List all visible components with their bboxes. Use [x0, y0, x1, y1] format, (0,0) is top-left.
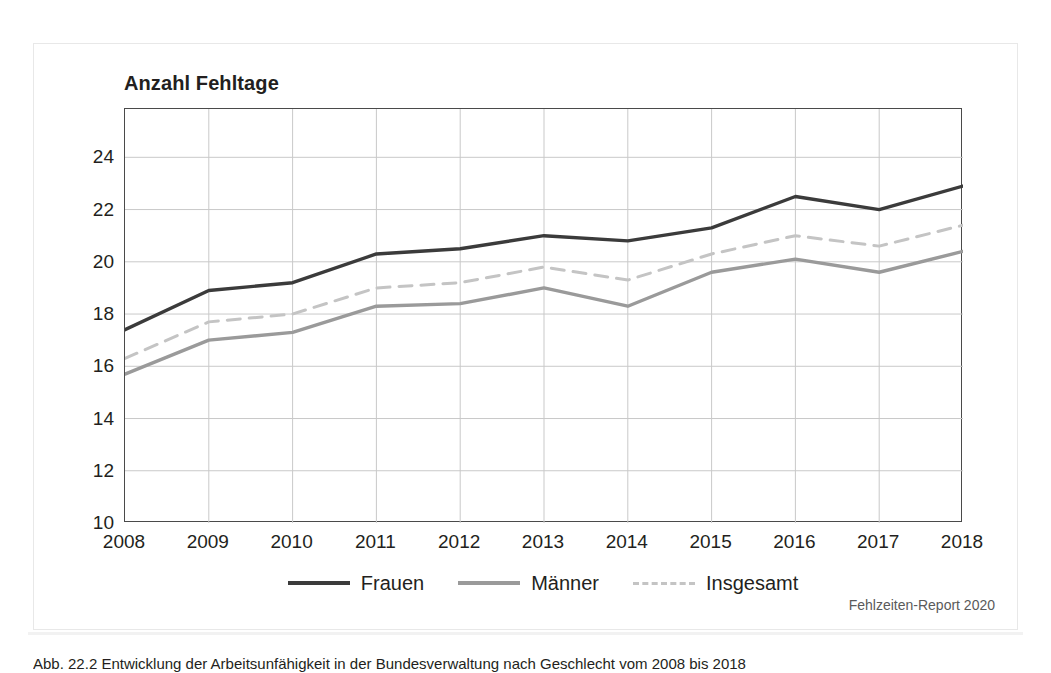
x-tick-label: 2015 — [671, 532, 751, 551]
legend-label: Insgesamt — [706, 573, 798, 593]
legend-entry-insgesamt[interactable]: Insgesamt — [633, 573, 798, 593]
legend-swatch-icon — [458, 581, 520, 585]
plot-area — [124, 108, 962, 522]
plot-svg — [125, 109, 963, 523]
figure-caption: Abb. 22.2 Entwicklung der Arbeitsunfähig… — [33, 655, 1023, 672]
x-tick-label: 2017 — [838, 532, 918, 551]
x-tick-label: 2018 — [922, 532, 1002, 551]
y-tick-label: 16 — [70, 356, 114, 375]
x-tick-label: 2011 — [335, 532, 415, 551]
legend-entry-frauen[interactable]: Frauen — [288, 573, 424, 593]
y-axis-tick-labels: 1012141618202224 — [62, 108, 114, 522]
x-tick-label: 2010 — [252, 532, 332, 551]
x-tick-label: 2013 — [503, 532, 583, 551]
x-tick-label: 2009 — [168, 532, 248, 551]
vertical-gridlines — [209, 109, 879, 523]
legend-entry-männer[interactable]: Männer — [458, 573, 599, 593]
y-tick-label: 10 — [70, 513, 114, 532]
legend-label: Männer — [531, 573, 599, 593]
scan-page-edge — [28, 632, 1023, 635]
y-tick-label: 20 — [70, 252, 114, 271]
y-tick-label: 24 — [70, 147, 114, 166]
legend-swatch-icon — [288, 581, 350, 585]
source-credit: Fehlzeiten-Report 2020 — [849, 597, 995, 613]
y-tick-label: 18 — [70, 304, 114, 323]
legend-swatch-icon — [633, 582, 695, 585]
y-tick-label: 14 — [70, 409, 114, 428]
x-axis-tick-labels: 2008200920102011201220132014201520162017… — [124, 532, 962, 560]
x-tick-label: 2014 — [587, 532, 667, 551]
y-tick-label: 12 — [70, 461, 114, 480]
x-tick-label: 2016 — [754, 532, 834, 551]
x-tick-label: 2012 — [419, 532, 499, 551]
x-tick-label: 2008 — [84, 532, 164, 551]
chart-title: Anzahl Fehltage — [124, 72, 279, 95]
legend-label: Frauen — [361, 573, 424, 593]
chart-legend: FrauenMännerInsgesamt — [124, 570, 962, 596]
y-tick-label: 22 — [70, 200, 114, 219]
